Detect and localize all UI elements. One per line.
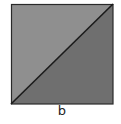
- figure-label: b: [0, 103, 121, 119]
- diagonal-square-figure: b: [0, 0, 121, 124]
